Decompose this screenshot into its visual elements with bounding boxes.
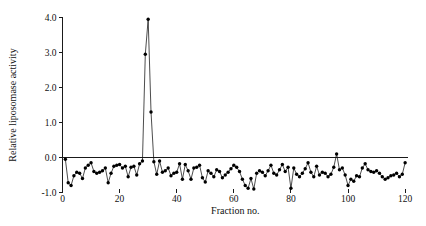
data-point — [186, 169, 189, 172]
data-point — [224, 173, 227, 176]
data-point — [166, 166, 169, 169]
data-point — [184, 163, 187, 166]
data-point — [218, 170, 221, 173]
data-point — [403, 161, 406, 164]
data-point — [149, 110, 152, 113]
data-point — [349, 178, 352, 181]
data-point — [249, 177, 252, 180]
data-point — [135, 173, 138, 176]
data-point — [335, 152, 338, 155]
data-point — [266, 169, 269, 172]
data-point — [229, 167, 232, 170]
data-point — [286, 166, 289, 169]
data-point — [246, 187, 249, 190]
data-point — [301, 172, 304, 175]
y-axis-title: Relative liposomase activity — [7, 48, 18, 161]
data-point — [275, 173, 278, 176]
y-tick-label-0.0: 0.0 — [45, 153, 57, 163]
x-axis-title: Fraction no. — [211, 205, 259, 216]
data-point — [264, 174, 267, 177]
data-point — [235, 166, 238, 169]
data-point — [361, 166, 364, 169]
data-point — [278, 168, 281, 171]
data-point — [332, 166, 335, 169]
figure-container: -1.00.01.02.03.04.0 020406080100120 Frac… — [0, 0, 426, 226]
data-point — [341, 166, 344, 169]
x-tick-label-0: 0 — [60, 194, 65, 204]
x-axis-ticks — [63, 189, 406, 193]
data-point — [315, 165, 318, 168]
data-point — [155, 173, 158, 176]
data-point — [204, 180, 207, 183]
data-point — [389, 174, 392, 177]
data-point — [109, 172, 112, 175]
y-tick-label-4.0: 4.0 — [45, 13, 57, 23]
data-point — [67, 181, 70, 184]
data-point — [312, 175, 315, 178]
data-point — [232, 164, 235, 167]
data-point — [198, 164, 201, 167]
x-axis-group: 020406080100120 — [60, 158, 412, 204]
data-point — [206, 169, 209, 172]
data-point — [221, 176, 224, 179]
data-point — [238, 170, 241, 173]
data-point — [64, 158, 67, 161]
data-point — [164, 169, 167, 172]
data-point — [378, 172, 381, 175]
x-tick-label-100: 100 — [341, 194, 356, 204]
data-point — [84, 166, 87, 169]
data-point — [295, 173, 298, 176]
data-point — [169, 174, 172, 177]
data-point — [346, 184, 349, 187]
data-point — [92, 170, 95, 173]
data-point — [89, 161, 92, 164]
data-point — [306, 161, 309, 164]
y-tick-label-1.0: 1.0 — [45, 118, 57, 128]
data-point — [215, 168, 218, 171]
data-point — [323, 172, 326, 175]
data-point — [252, 187, 255, 190]
data-point — [78, 172, 81, 175]
data-point — [106, 181, 109, 184]
data-point — [386, 176, 389, 179]
data-point — [69, 184, 72, 187]
data-point — [138, 162, 141, 165]
y-tick-label--1.0: -1.0 — [41, 188, 56, 198]
data-series-group — [64, 18, 407, 191]
data-point — [298, 175, 301, 178]
data-point — [352, 180, 355, 183]
data-point — [146, 18, 149, 21]
data-point — [144, 53, 147, 56]
series-markers-liposomase-activity — [64, 18, 407, 191]
data-point — [269, 164, 272, 167]
data-point — [338, 168, 341, 171]
x-tick-label-40: 40 — [172, 194, 182, 204]
data-point — [124, 165, 127, 168]
data-point — [195, 166, 198, 169]
data-point — [304, 167, 307, 170]
x-tick-label-20: 20 — [115, 194, 125, 204]
data-point — [309, 171, 312, 174]
data-point — [175, 171, 178, 174]
data-point — [158, 159, 161, 162]
data-point — [358, 175, 361, 178]
data-point — [272, 172, 275, 175]
data-point — [132, 165, 135, 168]
data-point — [381, 175, 384, 178]
data-point — [369, 170, 372, 173]
x-axis-tick-labels: 020406080100120 — [60, 194, 412, 204]
y-axis-group: -1.00.01.02.03.04.0 — [41, 13, 62, 198]
y-axis-tick-labels: -1.00.01.02.03.04.0 — [41, 13, 56, 198]
x-tick-label-120: 120 — [398, 194, 413, 204]
x-tick-label-60: 60 — [229, 194, 239, 204]
data-point — [201, 176, 204, 179]
series-line-liposomase-activity — [65, 19, 405, 189]
data-point — [121, 166, 124, 169]
data-point — [189, 178, 192, 181]
y-tick-label-3.0: 3.0 — [45, 48, 57, 58]
y-axis-ticks — [59, 18, 63, 193]
data-point — [181, 178, 184, 181]
data-point — [152, 160, 155, 163]
data-point — [209, 172, 212, 175]
data-point — [118, 163, 121, 166]
